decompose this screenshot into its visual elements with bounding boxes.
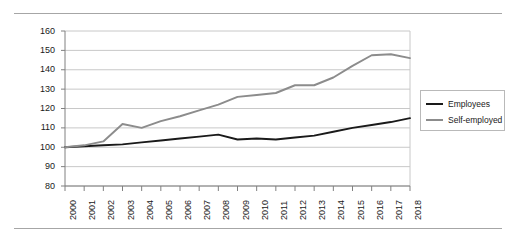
x-axis-tick-label: 2005 (165, 200, 174, 220)
x-axis-tick-label: 2011 (280, 201, 289, 220)
y-axis-tick-label: 150 (31, 46, 55, 55)
legend-item-self-employed: Self-employed (426, 113, 502, 127)
series-line-self-employed (65, 54, 410, 147)
x-axis-tick-label: 2012 (299, 200, 308, 220)
x-axis-tick-label: 2015 (357, 200, 366, 220)
y-axis-ticks (61, 31, 65, 186)
x-axis-tick-label: 2002 (107, 200, 116, 220)
legend-swatch-employees (426, 103, 443, 105)
x-axis-tick-label: 2010 (261, 200, 270, 220)
y-axis-tick-label: 80 (31, 182, 55, 191)
chart-legend: Employees Self-employed (420, 90, 505, 131)
x-axis-tick-label: 2013 (318, 200, 327, 220)
x-axis-tick-label: 2000 (69, 200, 78, 220)
x-axis-tick-label: 2018 (414, 200, 423, 220)
legend-label-self-employed: Self-employed (448, 115, 502, 125)
line-chart: 8090100110120130140150160 20002001200220… (0, 0, 516, 245)
x-axis-tick-label: 2017 (395, 200, 404, 220)
x-axis-tick-label: 2003 (127, 200, 136, 220)
data-series (65, 54, 410, 147)
y-axis-tick-label: 90 (31, 162, 55, 171)
y-axis-tick-label: 100 (31, 143, 55, 152)
x-axis-ticks (65, 186, 410, 191)
x-axis-tick-label: 2016 (376, 200, 385, 220)
x-axis-tick-label: 2008 (222, 200, 231, 220)
legend-item-employees: Employees (426, 97, 490, 111)
y-axis-tick-label: 140 (31, 65, 55, 74)
x-axis-tick-label: 2014 (337, 200, 346, 220)
y-axis-tick-label: 110 (31, 123, 55, 132)
chart-page: 8090100110120130140150160 20002001200220… (0, 0, 516, 245)
series-line-employees (65, 118, 410, 147)
x-axis-tick-label: 2004 (146, 200, 155, 220)
legend-label-employees: Employees (448, 99, 490, 109)
x-axis-tick-label: 2006 (184, 200, 193, 220)
y-axis-tick-label: 120 (31, 104, 55, 113)
y-axis-tick-label: 160 (31, 27, 55, 36)
y-axis-tick-label: 130 (31, 85, 55, 94)
x-axis-tick-label: 2007 (203, 200, 212, 220)
gridlines (65, 31, 410, 186)
x-axis-tick-label: 2001 (88, 200, 97, 220)
x-axis-tick-label: 2009 (242, 200, 251, 220)
legend-swatch-self-employed (426, 119, 443, 121)
